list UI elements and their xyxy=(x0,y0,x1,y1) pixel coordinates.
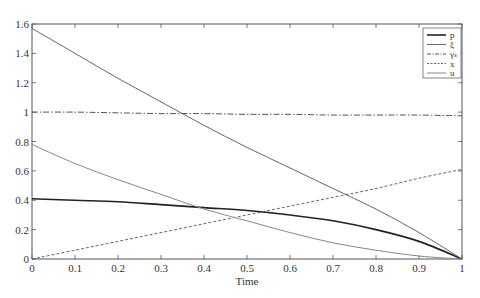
x-tick-label: 0 xyxy=(29,262,35,274)
y-tick-label: 0.4 xyxy=(15,194,29,206)
x-tick-label: 1 xyxy=(459,262,465,274)
x-tick-label: 0.4 xyxy=(197,262,211,274)
x-tick-label: 0.3 xyxy=(154,262,168,274)
y-tick-label: 0.6 xyxy=(15,165,29,177)
line-chart: 00.20.40.60.811.21.41.6 00.10.20.30.40.5… xyxy=(0,0,480,298)
y-tick-label: 0.8 xyxy=(15,136,29,148)
y-tick-label: 0.2 xyxy=(15,224,29,236)
legend-label: ξ xyxy=(450,40,454,50)
x-axis-label: Time xyxy=(236,275,259,287)
y-tick-label: 1.6 xyxy=(15,18,29,30)
legend-label: p xyxy=(450,30,455,40)
x-tick-label: 0.5 xyxy=(240,262,254,274)
legend: pξγₛxu xyxy=(423,28,461,78)
legend-label: u xyxy=(450,68,455,78)
legend-label: x xyxy=(450,59,455,69)
legend-label: γₛ xyxy=(449,49,457,59)
x-tick-label: 0.1 xyxy=(68,262,82,274)
x-tick-label: 0.9 xyxy=(412,262,426,274)
y-tick-label: 1 xyxy=(24,106,30,118)
x-tick-label: 0.7 xyxy=(326,262,340,274)
y-tick-label: 1.2 xyxy=(15,77,29,89)
plot-area xyxy=(32,24,462,259)
x-tick-label: 0.8 xyxy=(369,262,383,274)
y-tick-label: 1.4 xyxy=(15,47,29,59)
x-tick-label: 0.2 xyxy=(111,262,125,274)
x-tick-label: 0.6 xyxy=(283,262,297,274)
